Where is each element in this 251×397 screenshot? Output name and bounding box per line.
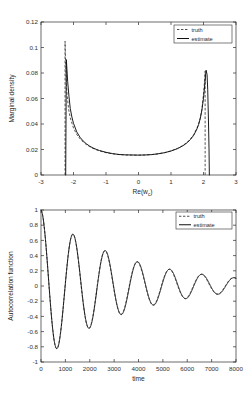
x-tick-label: -2 <box>71 178 77 185</box>
y-tick-label: 0 <box>35 171 39 178</box>
x-tick-label: 8000 <box>229 365 243 372</box>
y-axis-label: Autocorrelation function <box>7 251 14 321</box>
x-tick-label: 6000 <box>180 365 194 372</box>
legend: truthestimate <box>174 25 232 43</box>
y-tick-label: -0.6 <box>27 328 38 335</box>
autocorrelation-panel: 010002000300040005000600070008000-1-0.8-… <box>0 200 251 397</box>
legend-label-estimate: estimate <box>192 36 213 42</box>
series-estimate <box>41 210 236 349</box>
x-tick-label: 3 <box>234 178 238 185</box>
x-axis-label-main: Re(wc) <box>133 188 153 197</box>
x-tick-label: -3 <box>38 178 44 185</box>
plot-frame <box>41 210 236 362</box>
legend-label-truth: truth <box>194 213 205 219</box>
x-axis-label: Re(wc) <box>133 188 153 197</box>
x-tick-label: 2000 <box>83 365 97 372</box>
legend-label-estimate: estimate <box>194 222 215 228</box>
y-tick-label: 0 <box>35 282 39 289</box>
legend-label-truth: truth <box>192 27 203 33</box>
x-tick-label: 2 <box>202 178 206 185</box>
y-tick-label: 0.02 <box>26 146 39 153</box>
figure-container: -3-2-1012300.020.040.060.080.10.12Margin… <box>0 0 251 397</box>
y-tick-label: 0.4 <box>29 252 38 259</box>
x-tick-label: -1 <box>103 178 109 185</box>
x-tick-label: 7000 <box>205 365 219 372</box>
x-tick-label: 1000 <box>58 365 72 372</box>
plot-frame <box>41 22 236 175</box>
x-tick-label: 0 <box>39 365 43 372</box>
y-tick-label: 0.04 <box>26 120 39 127</box>
x-tick-label: 0 <box>137 178 141 185</box>
autocorrelation-chart: 010002000300040005000600070008000-1-0.8-… <box>0 200 251 397</box>
x-tick-label: 3000 <box>107 365 121 372</box>
y-tick-label: 0.6 <box>29 237 38 244</box>
y-tick-label: 0.2 <box>29 267 38 274</box>
x-tick-label: 4000 <box>132 365 146 372</box>
legend: truthestimate <box>176 212 232 229</box>
y-tick-label: -0.8 <box>27 343 38 350</box>
y-tick-label: -0.2 <box>27 297 38 304</box>
y-tick-label: -1 <box>32 358 38 365</box>
y-tick-label: 0.06 <box>26 95 39 102</box>
series-estimate <box>66 60 210 175</box>
y-tick-label: 0.1 <box>29 44 38 51</box>
y-tick-label: 0.08 <box>26 69 39 76</box>
y-tick-label: -0.4 <box>27 313 38 320</box>
x-axis-label: time <box>132 375 145 382</box>
x-tick-label: 1 <box>169 178 173 185</box>
y-tick-label: 0.12 <box>26 18 39 25</box>
marginal-density-chart: -3-2-1012300.020.040.060.080.10.12Margin… <box>0 0 251 200</box>
x-tick-label: 5000 <box>156 365 170 372</box>
y-axis-label: Marginal density <box>8 74 16 123</box>
y-tick-label: 1 <box>35 206 39 213</box>
marginal-density-panel: -3-2-1012300.020.040.060.080.10.12Margin… <box>0 0 251 200</box>
y-tick-label: 0.8 <box>29 221 38 228</box>
